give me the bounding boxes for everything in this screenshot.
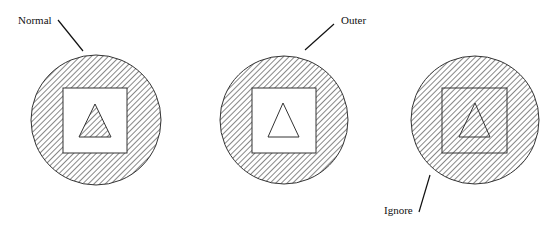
outer-label: Outer [341, 14, 366, 26]
normal-label: Normal [18, 14, 52, 26]
outer-circle [411, 56, 539, 184]
hatch-styles-diagram: Normal Outer Ignore [0, 0, 560, 229]
normal-leader-line [58, 20, 83, 51]
ignore-leader-line [419, 175, 430, 212]
panel-normal: Normal [18, 14, 161, 185]
panel-outer: Outer [220, 14, 366, 184]
ignore-label: Ignore [384, 204, 413, 216]
outer-leader-line [305, 24, 334, 50]
panel-ignore: Ignore [384, 56, 539, 216]
